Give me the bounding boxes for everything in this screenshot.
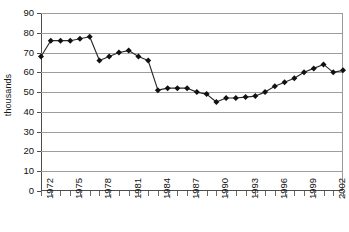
x-tick-mark [177, 191, 178, 196]
y-tick-label: 50 [12, 87, 34, 97]
y-tick-label: 40 [12, 107, 34, 117]
data-point [145, 57, 151, 63]
x-tick-mark [51, 191, 52, 196]
x-tick-mark [109, 191, 110, 196]
plot-area: 0102030405060708090 19721975197819811984… [41, 13, 343, 191]
data-point [311, 65, 317, 71]
x-tick-mark [168, 191, 169, 196]
x-tick-mark [304, 191, 305, 196]
data-point [67, 38, 73, 44]
data-point [340, 67, 346, 73]
x-tick-mark [207, 191, 208, 196]
data-point [77, 36, 83, 42]
data-point [243, 94, 249, 100]
data-point [233, 95, 239, 101]
data-point [184, 85, 190, 91]
x-tick-mark [129, 191, 130, 196]
y-tick-label: 90 [12, 8, 34, 18]
data-point [262, 89, 268, 95]
x-tick-mark [158, 191, 159, 196]
x-tick-mark [187, 191, 188, 196]
x-tick-mark [226, 191, 227, 196]
x-tick-mark [70, 191, 71, 196]
x-tick-mark [236, 191, 237, 196]
data-point [96, 57, 102, 63]
data-point [48, 38, 54, 44]
x-tick-mark [265, 191, 266, 196]
x-tick-mark [90, 191, 91, 196]
x-tick-mark [285, 191, 286, 196]
x-tick-mark [60, 191, 61, 196]
x-tick-mark [197, 191, 198, 196]
x-tick-mark [324, 191, 325, 196]
y-tick-label: 20 [12, 147, 34, 157]
x-tick-mark [216, 191, 217, 196]
x-tick-mark [255, 191, 256, 196]
x-tick-mark [314, 191, 315, 196]
series-line [41, 37, 343, 102]
data-point [291, 75, 297, 81]
data-point [165, 85, 171, 91]
data-point [174, 85, 180, 91]
x-tick-mark [333, 191, 334, 196]
x-tick-mark [275, 191, 276, 196]
data-point [252, 93, 258, 99]
y-tick-label: 0 [12, 186, 34, 196]
data-point [87, 34, 93, 40]
data-point [272, 83, 278, 89]
data-point [155, 87, 161, 93]
y-tick-label: 10 [12, 166, 34, 176]
x-tick-mark [119, 191, 120, 196]
data-point [126, 48, 132, 54]
x-tick-mark [80, 191, 81, 196]
x-tick-mark [41, 191, 42, 196]
data-point [57, 38, 63, 44]
data-point [282, 79, 288, 85]
line-chart: thousands 0102030405060708090 1972197519… [0, 0, 349, 232]
data-point [38, 54, 44, 60]
data-series [41, 13, 343, 191]
x-tick-mark [246, 191, 247, 196]
y-tick-label: 70 [12, 48, 34, 58]
data-point [223, 95, 229, 101]
data-point [106, 54, 112, 60]
x-tick-mark [138, 191, 139, 196]
x-tick-mark [148, 191, 149, 196]
y-tick-label: 30 [12, 127, 34, 137]
x-tick-mark [294, 191, 295, 196]
y-tick-label: 60 [12, 68, 34, 78]
x-tick-mark [343, 191, 344, 196]
y-tick-label: 80 [12, 28, 34, 38]
data-point [301, 69, 307, 75]
x-tick-mark [99, 191, 100, 196]
data-point [194, 89, 200, 95]
data-point [135, 54, 141, 60]
data-point [116, 50, 122, 56]
